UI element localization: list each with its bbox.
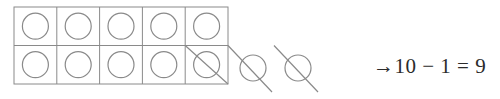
ten-frame-figure [0,0,500,99]
removed-counter-1 [228,46,272,93]
counter-circle [151,52,177,78]
worksheet-canvas: →10 − 1 = 9 [0,0,500,99]
counter-circle-crossed-out [240,55,266,81]
counter-circle [65,13,91,39]
removed-counter-2 [274,46,318,93]
subtraction-equation: →10 − 1 = 9 [373,53,486,79]
counter-circle [194,13,220,39]
counter-circle [151,13,177,39]
counter-circle [22,52,48,78]
counter-row-bottom [22,52,219,78]
counter-circle [108,13,134,39]
counter-circle [22,13,48,39]
counter-row-top [22,13,219,39]
counter-circle-crossed-out [285,55,311,81]
counter-circle [65,52,91,78]
counter-circle [108,52,134,78]
